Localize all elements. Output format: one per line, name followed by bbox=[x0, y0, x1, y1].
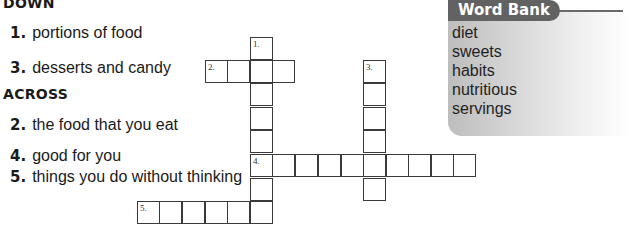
word-bank-item: nutritious bbox=[452, 80, 517, 99]
clue-text: things you do without thinking bbox=[32, 168, 242, 185]
clue-number: 5. bbox=[10, 168, 26, 186]
grid-cell[interactable] bbox=[453, 154, 476, 177]
word-bank-list: diet sweets habits nutritious servings bbox=[452, 23, 517, 118]
clue-text: desserts and candy bbox=[32, 59, 171, 76]
clue-text: the food that you eat bbox=[32, 116, 178, 133]
grid-cell[interactable] bbox=[250, 60, 273, 83]
cell-number: 5. bbox=[140, 203, 147, 213]
word-bank-title: Word Bank bbox=[448, 0, 560, 21]
grid-cell[interactable] bbox=[341, 154, 364, 177]
across-clue-4: 4.good for you bbox=[10, 147, 121, 165]
across-clue-5: 5.things you do without thinking bbox=[10, 168, 242, 186]
grid-cell[interactable] bbox=[363, 83, 386, 106]
grid-cell[interactable] bbox=[408, 154, 431, 177]
grid-cell[interactable]: 4. bbox=[250, 154, 273, 177]
word-bank-item: sweets bbox=[452, 42, 517, 61]
grid-cell[interactable] bbox=[227, 201, 250, 224]
across-heading: ACROSS bbox=[3, 86, 68, 102]
grid-cell[interactable]: 1. bbox=[250, 37, 273, 60]
grid-cell[interactable]: 3. bbox=[363, 60, 386, 83]
clue-text: portions of food bbox=[32, 24, 142, 41]
grid-cell[interactable] bbox=[431, 154, 454, 177]
grid-cell[interactable] bbox=[318, 154, 341, 177]
grid-cell[interactable]: 2. bbox=[205, 60, 228, 83]
word-bank-item: habits bbox=[452, 61, 517, 80]
grid-cell[interactable] bbox=[363, 154, 386, 177]
cell-number: 1. bbox=[253, 39, 260, 49]
down-heading: DOWN bbox=[3, 0, 55, 11]
grid-cell[interactable] bbox=[250, 201, 273, 224]
grid-cell[interactable]: 5. bbox=[137, 201, 160, 224]
grid-cell[interactable] bbox=[250, 178, 273, 201]
clue-number: 1. bbox=[10, 24, 26, 42]
word-bank-item: diet bbox=[452, 23, 517, 42]
down-clue-3: 3.desserts and candy bbox=[10, 59, 171, 77]
grid-cell[interactable] bbox=[182, 201, 205, 224]
grid-cell[interactable] bbox=[386, 154, 409, 177]
grid-cell[interactable] bbox=[363, 107, 386, 130]
grid-cell[interactable] bbox=[250, 130, 273, 153]
grid-cell[interactable] bbox=[250, 107, 273, 130]
grid-cell[interactable] bbox=[159, 201, 182, 224]
across-clue-2: 2.the food that you eat bbox=[10, 116, 178, 134]
word-bank-item: servings bbox=[452, 99, 517, 118]
grid-cell[interactable] bbox=[272, 60, 295, 83]
grid-cell[interactable] bbox=[227, 60, 250, 83]
grid-cell[interactable] bbox=[295, 154, 318, 177]
grid-cell[interactable] bbox=[250, 83, 273, 106]
cell-number: 3. bbox=[366, 62, 373, 72]
clue-number: 4. bbox=[10, 147, 26, 165]
clue-number: 3. bbox=[10, 59, 26, 77]
cell-number: 2. bbox=[208, 62, 215, 72]
grid-cell[interactable] bbox=[272, 154, 295, 177]
grid-cell[interactable] bbox=[363, 178, 386, 201]
grid-cell[interactable] bbox=[205, 201, 228, 224]
clue-text: good for you bbox=[32, 147, 121, 164]
cell-number: 4. bbox=[253, 156, 260, 166]
grid-cell[interactable] bbox=[363, 130, 386, 153]
down-clue-1: 1.portions of food bbox=[10, 24, 142, 42]
clue-number: 2. bbox=[10, 116, 26, 134]
